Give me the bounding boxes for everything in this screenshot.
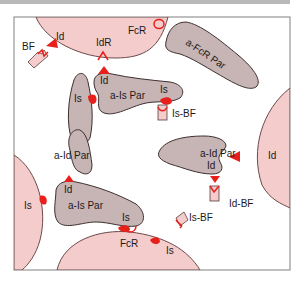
label-fcr-bottom: FcR [120,238,138,249]
label-is-bf-top: Is-BF [172,108,196,119]
label-a-is-par-top: a-Is Par [110,90,146,101]
label-id-top: Id [56,31,64,42]
label-is-left-cell: Is [24,200,32,211]
label-id-bf: Id-BF [229,198,253,209]
label-is-bottom-cell: Is [166,245,174,256]
idiotype-network-diagram: BF Id IdR FcR a-FcR Par Is Id a-Is Par I… [0,0,300,285]
label-a-id-par-right: a-Id Par [200,148,236,159]
label-bf-top: BF [22,41,35,52]
label-is-on-a-is-bottom: Is [122,212,130,223]
is-bf-top [158,105,167,120]
label-id-on-a-is-bottom: Id [64,184,72,195]
diagram-frame [14,17,290,270]
label-id-on-a-id: Id [207,160,215,171]
label-a-is-par-bottom: a-Is Par [68,200,104,211]
label-is-left-par: Is [74,93,82,104]
label-id-right-cell: Id [268,150,276,161]
label-is-on-a-is: Is [160,84,168,95]
label-is-bf-bottom: Is-BF [189,212,213,223]
label-idr: IdR [96,37,112,48]
label-fcr-top: FcR [128,25,146,36]
label-id-on-a-is: Id [100,75,108,86]
label-a-id-par-left: a-Id Par [54,150,90,161]
